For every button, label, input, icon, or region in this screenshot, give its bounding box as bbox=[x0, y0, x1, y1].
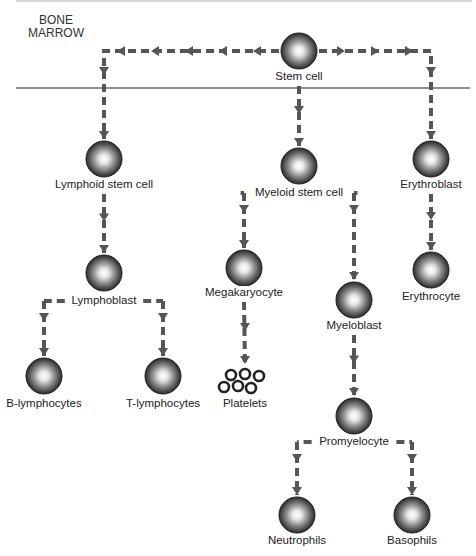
cell-erythrocyte-icon bbox=[413, 252, 449, 288]
cell-label-platelets: Platelets bbox=[221, 397, 269, 410]
cell-label-b-lymphocytes: B-lymphocytes bbox=[4, 397, 83, 410]
platelets-icon bbox=[219, 369, 264, 393]
cell-label-neutrophils: Neutrophils bbox=[266, 534, 328, 547]
cells bbox=[26, 33, 449, 533]
hematopoiesis-diagram: BONE MARROW Stem cellL bbox=[0, 0, 476, 556]
cell-stem-icon bbox=[281, 33, 317, 69]
cell-lymphoblast-icon bbox=[86, 255, 122, 291]
cell-myeloblast-icon bbox=[336, 282, 372, 318]
diagram-canvas bbox=[0, 0, 476, 556]
cell-label-t-lymphocytes: T-lymphocytes bbox=[124, 397, 202, 410]
cell-myeloid-icon bbox=[281, 148, 317, 184]
cell-label-myeloblast: Myeloblast bbox=[325, 319, 384, 332]
cell-lymphoid-icon bbox=[86, 141, 122, 177]
cell-label-lymphoid: Lymphoid stem cell bbox=[53, 178, 155, 191]
cell-label-basophils: Basophils bbox=[385, 534, 439, 547]
cell-basophils-icon bbox=[394, 497, 430, 533]
cell-megakaryocyte-icon bbox=[226, 250, 262, 286]
cell-b-lymphocytes-icon bbox=[26, 358, 62, 394]
cell-erythroblast-icon bbox=[413, 141, 449, 177]
cell-neutrophils-icon bbox=[279, 497, 315, 533]
cell-label-erythroblast: Erythroblast bbox=[398, 178, 463, 191]
cell-label-lymphoblast: Lymphoblast bbox=[70, 294, 139, 307]
cell-label-erythrocyte: Erythrocyte bbox=[400, 290, 462, 303]
cell-t-lymphocytes-icon bbox=[145, 358, 181, 394]
cell-label-megakaryocyte: Megakaryocyte bbox=[203, 286, 285, 299]
cell-label-stem: Stem cell bbox=[273, 70, 324, 83]
cell-label-promyelocyte: Promyelocyte bbox=[317, 435, 391, 448]
cell-label-myeloid: Myeloid stem cell bbox=[253, 186, 345, 199]
cell-promyelocyte-icon bbox=[336, 398, 372, 434]
